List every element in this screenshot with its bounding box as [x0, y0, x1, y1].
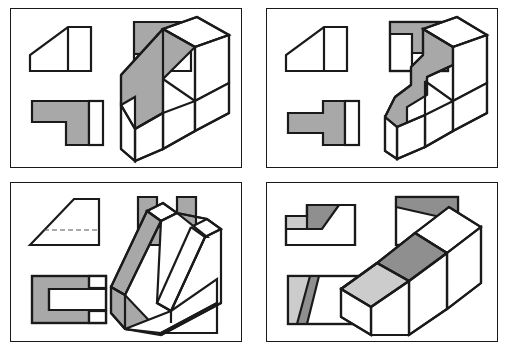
- p2-front-view: [286, 27, 347, 71]
- p3-isometric-view: [111, 203, 221, 335]
- p2-side-view: [288, 101, 359, 145]
- p1-front-view: [30, 27, 91, 71]
- p1-side-view: [32, 101, 103, 145]
- panel-3-canvas: [11, 183, 241, 341]
- p3-front-view: [30, 199, 99, 245]
- drawing-sheet: [0, 0, 510, 353]
- panel-1-canvas: [11, 9, 241, 167]
- p3-side-view: [32, 276, 106, 323]
- p4-front-view: [286, 205, 355, 245]
- panel-2-canvas: [267, 9, 497, 167]
- panel-4: [266, 182, 498, 342]
- panel-4-canvas: [267, 183, 497, 341]
- panel-3: [10, 182, 242, 342]
- panel-2: [266, 8, 498, 168]
- panel-1: [10, 8, 242, 168]
